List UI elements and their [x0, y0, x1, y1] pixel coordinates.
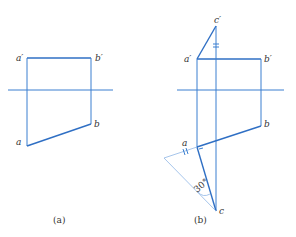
panel-b-angle-label: 30°	[192, 177, 211, 195]
panel-b-tick-mark	[183, 149, 185, 155]
panel-b-label-a: a	[182, 138, 187, 148]
panel-b-construction-line-a	[164, 147, 197, 158]
panel-a-caption: (a)	[53, 215, 65, 225]
panel-b-label-a-prime: a′	[184, 54, 191, 64]
orthographic-projection-diagram: a′ b′ b a (a) c′ a′ b′ b a 30° c (b)	[0, 0, 296, 237]
panel-b-caption: (b)	[194, 215, 207, 225]
panel-b-tick-mark	[199, 148, 203, 149]
panel-b-tick-mark	[186, 148, 188, 154]
panel-a: a′ b′ b a (a)	[8, 53, 113, 225]
panel-a-label-b: b	[94, 119, 100, 129]
panel-b-top-view-ab	[197, 126, 261, 147]
panel-b-front-view-ac	[197, 26, 216, 59]
panel-b: c′ a′ b′ b a 30° c (b)	[164, 15, 284, 225]
panel-a-top-view-ab	[27, 124, 91, 146]
panel-a-label-a-prime: a′	[16, 53, 23, 63]
panel-a-label-b-prime: b′	[95, 53, 103, 63]
panel-b-label-c-prime: c′	[214, 15, 221, 25]
panel-b-label-b-prime: b′	[264, 54, 272, 64]
panel-a-label-a: a	[16, 137, 21, 147]
panel-b-label-c: c	[219, 206, 224, 216]
panel-b-label-b: b	[264, 119, 270, 129]
